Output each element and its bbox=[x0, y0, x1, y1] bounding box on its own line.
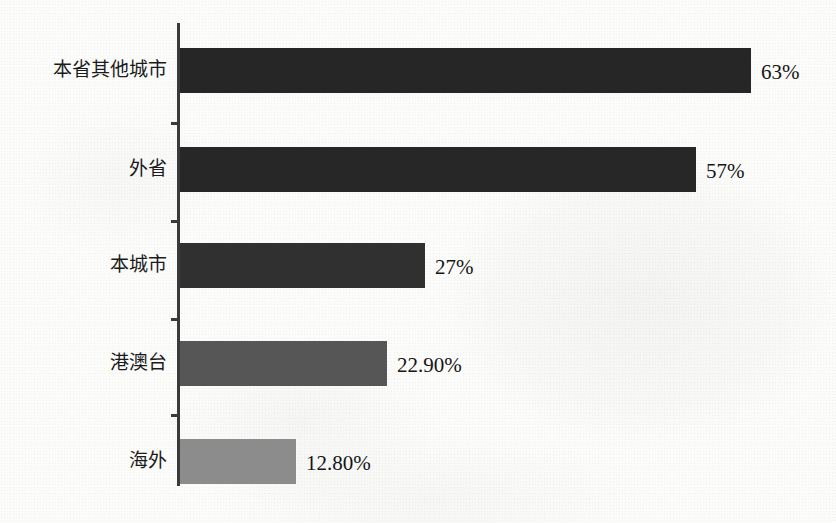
value-label-4: 12.80% bbox=[306, 453, 371, 474]
bar-2 bbox=[180, 243, 425, 288]
category-label-0: 本省其他城市 bbox=[7, 60, 167, 79]
category-label-1: 外省 bbox=[7, 159, 167, 178]
bar-3 bbox=[180, 341, 387, 386]
category-label-4: 海外 bbox=[7, 451, 167, 470]
axis-tick-2 bbox=[171, 220, 178, 223]
bar-chart-figure: 本省其他城市 63% 外省 57% 本城市 27% 港澳台 22.90% 海外 … bbox=[0, 0, 836, 523]
bar-1 bbox=[180, 147, 696, 192]
value-label-0: 63% bbox=[761, 62, 800, 83]
bar-4 bbox=[180, 439, 296, 484]
plot-area: 本省其他城市 63% 外省 57% 本城市 27% 港澳台 22.90% 海外 … bbox=[0, 0, 836, 523]
bar-0 bbox=[180, 48, 751, 93]
category-label-3: 港澳台 bbox=[7, 353, 167, 372]
axis-tick-4 bbox=[171, 414, 178, 417]
axis-tick-3 bbox=[171, 318, 178, 321]
value-label-3: 22.90% bbox=[397, 355, 462, 376]
axis-tick-1 bbox=[171, 122, 178, 125]
category-label-2: 本城市 bbox=[7, 255, 167, 274]
value-label-2: 27% bbox=[435, 257, 474, 278]
value-label-1: 57% bbox=[706, 161, 745, 182]
